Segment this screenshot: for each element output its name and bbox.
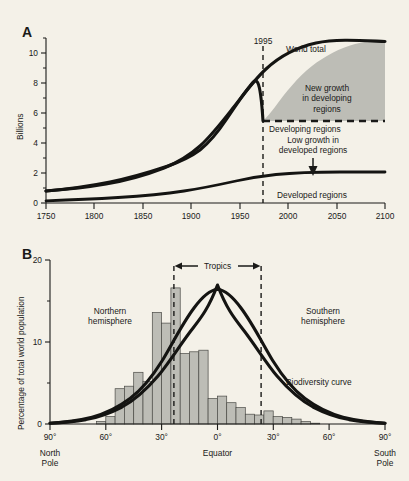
north-pole-label: North Pole — [40, 448, 60, 469]
panel-a-ytick-0: 0 — [33, 198, 38, 208]
panel-a-ytick-6: 6 — [33, 108, 38, 118]
panel-a-xtick-1900: 1900 — [182, 211, 201, 221]
panel-a-xtick-1750: 1750 — [37, 211, 56, 221]
panel-a-xtick-1850: 1850 — [134, 211, 153, 221]
panel-b-xtick-60s: 60° — [323, 432, 336, 442]
panel-a-plot — [0, 0, 409, 240]
panel-a-ylabel: Billions — [15, 113, 25, 140]
panel-b-ytick-0: 0 — [37, 419, 42, 429]
panel-a-ytick-10: 10 — [29, 48, 38, 58]
panel-b-ylabel: Percentage of total world population — [16, 296, 26, 430]
panel-b-xtick-90n: 90° — [44, 432, 57, 442]
panel-a-y-ticks — [41, 38, 46, 203]
southern-hemisphere-label: Southern hemisphere — [301, 306, 345, 327]
panel-a-x-ticks — [46, 203, 385, 209]
south-pole-label: South Pole — [374, 448, 396, 469]
panel-b: B — [0, 240, 409, 481]
panel-b-plot — [0, 240, 409, 481]
northern-hemisphere-label: Northern hemisphere — [88, 306, 132, 327]
panel-a-ytick-4: 4 — [33, 138, 38, 148]
low-growth-label: Low growth in developed regions — [279, 135, 347, 156]
figure-root: A — [0, 0, 409, 481]
equator-label: Equator — [203, 448, 232, 458]
panel-b-xtick-60n: 60° — [99, 432, 112, 442]
panel-a-xtick-2000: 2000 — [279, 211, 298, 221]
panel-b-x-ticks — [50, 424, 385, 430]
tropics-label: Tropics — [204, 261, 231, 271]
panel-a-xtick-2100: 2100 — [376, 211, 395, 221]
biodiversity-curve-label: Biodiversity curve — [286, 377, 352, 387]
panel-a-ytick-2: 2 — [33, 168, 38, 178]
panel-b-xtick-0: 0° — [213, 432, 221, 442]
panel-b-ytick-20: 20 — [33, 255, 42, 265]
panel-b-xtick-30s: 30° — [267, 432, 280, 442]
panel-a-xtick-2050: 2050 — [328, 211, 347, 221]
panel-b-y-ticks — [45, 260, 50, 424]
developed-regions-label: Developed regions — [277, 190, 347, 200]
panel-b-ytick-10: 10 — [33, 337, 42, 347]
new-growth-label: New growth in developing regions — [302, 83, 351, 114]
panel-b-xtick-30n: 30° — [155, 432, 168, 442]
panel-a-ytick-8: 8 — [33, 78, 38, 88]
panel-b-xtick-90s: 90° — [379, 432, 392, 442]
world-total-curve — [46, 81, 263, 191]
developing-regions-label: Developing regions — [269, 124, 341, 134]
world-total-label: World total — [286, 44, 326, 54]
panel-a-xtick-1800: 1800 — [85, 211, 104, 221]
year-1995-label: 1995 — [254, 36, 273, 46]
panel-a-xtick-1950: 1950 — [231, 211, 250, 221]
panel-a: A — [0, 0, 409, 240]
